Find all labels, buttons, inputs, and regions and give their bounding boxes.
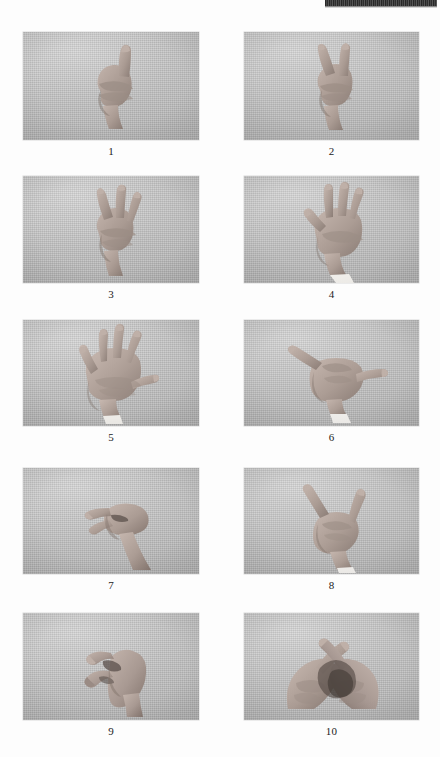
figure-caption-7: 7 [23, 579, 199, 591]
figure-cell-1 [23, 32, 199, 140]
figure-caption-1: 1 [23, 145, 199, 157]
hand-illustration-9 [23, 613, 199, 720]
hand-illustration-3 [23, 176, 199, 283]
figure-caption-9: 9 [23, 725, 199, 737]
photo-8 [244, 468, 419, 574]
figure-cell-4 [244, 176, 419, 283]
figure-caption-6: 6 [244, 431, 419, 443]
photo-6 [244, 320, 419, 426]
photo-10 [244, 613, 419, 720]
figure-cell-5 [23, 320, 199, 426]
figure-caption-8: 8 [244, 579, 419, 591]
hand-illustration-2 [244, 32, 419, 140]
figure-caption-4: 4 [244, 288, 419, 300]
hand-illustration-4 [244, 176, 419, 283]
figure-cell-6 [244, 320, 419, 426]
hand-illustration-8 [244, 468, 419, 574]
photo-5 [23, 320, 199, 426]
figure-caption-2: 2 [244, 145, 419, 157]
photo-1 [23, 32, 199, 140]
figure-cell-9 [23, 613, 199, 720]
figure-caption-10: 10 [244, 725, 419, 737]
photo-9 [23, 613, 199, 720]
figure-caption-5: 5 [23, 431, 199, 443]
hand-illustration-1 [23, 32, 199, 140]
figure-cell-2 [244, 32, 419, 140]
scan-edge-artifact [325, 0, 437, 6]
figure-cell-8 [244, 468, 419, 574]
photo-3 [23, 176, 199, 283]
figure-plate: 1 [0, 0, 440, 757]
hand-illustration-7 [23, 468, 199, 574]
hand-illustration-10 [244, 613, 419, 720]
figure-caption-3: 3 [23, 288, 199, 300]
photo-4 [244, 176, 419, 283]
figure-cell-3 [23, 176, 199, 283]
hand-illustration-5 [23, 320, 199, 426]
photo-2 [244, 32, 419, 140]
figure-cell-7 [23, 468, 199, 574]
photo-7 [23, 468, 199, 574]
hand-illustration-6 [244, 320, 419, 426]
figure-cell-10 [244, 613, 419, 720]
